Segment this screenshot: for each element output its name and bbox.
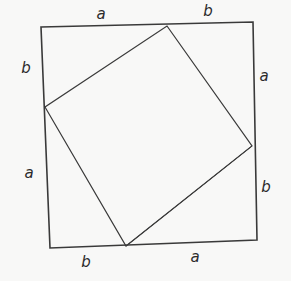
label-left-a: a — [24, 166, 33, 181]
label-right-a: a — [259, 69, 268, 84]
label-top-a: a — [96, 7, 105, 22]
label-bottom-b: b — [81, 255, 91, 270]
label-left-b: b — [21, 61, 31, 76]
label-right-b: b — [261, 180, 271, 195]
extra-lines — [126, 146, 252, 246]
hypotenuse-bottom-right — [126, 146, 252, 246]
outer-square — [41, 22, 257, 248]
inner-square — [45, 26, 252, 246]
label-bottom-a: a — [190, 250, 199, 265]
diagram-canvas — [0, 0, 291, 281]
label-top-b: b — [203, 4, 213, 19]
pythagorean-diagram: abbaabba — [0, 0, 291, 281]
